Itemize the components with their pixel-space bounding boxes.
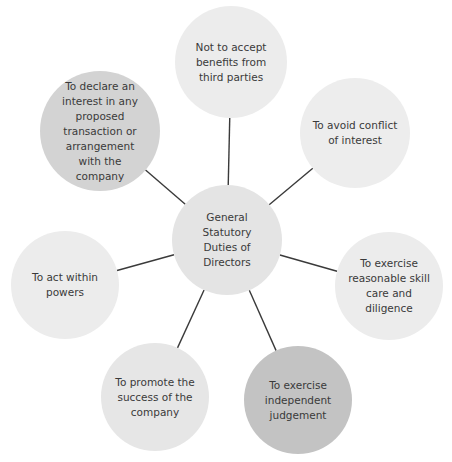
duty-label: To declare an interest in any proposed t… [62, 79, 138, 184]
duty-label: To promote the success of the company [115, 375, 194, 420]
connector-line [146, 170, 186, 204]
duty-node-independent-judgement: To exercise independent judgement [244, 346, 352, 454]
center-node-general-statutory-duties: General Statutory Duties of Directors [172, 185, 282, 295]
connector-line [117, 255, 174, 271]
duties-diagram: General Statutory Duties of Directors No… [0, 0, 452, 462]
duty-node-promote-success: To promote the success of the company [101, 343, 209, 451]
duty-node-avoid-conflict: To avoid conflict of interest [300, 78, 410, 188]
connector-line [280, 255, 337, 271]
duty-label: To avoid conflict of interest [313, 118, 398, 148]
connector-line [178, 290, 205, 348]
center-node-label: General Statutory Duties of Directors [202, 210, 251, 270]
connector-line [269, 168, 313, 204]
duty-label: Not to accept benefits from third partie… [196, 40, 267, 85]
duty-node-reasonable-skill: To exercise reasonable skill care and di… [335, 232, 443, 340]
duty-label: To exercise reasonable skill care and di… [343, 256, 435, 316]
duty-node-act-within-powers: To act within powers [11, 231, 119, 339]
duty-label: To exercise independent judgement [265, 378, 331, 423]
connector-line [228, 118, 230, 185]
duty-node-not-accept-benefits: Not to accept benefits from third partie… [175, 6, 287, 118]
duty-label: To act within powers [32, 270, 98, 300]
connector-line [249, 290, 276, 350]
duty-node-declare-interest: To declare an interest in any proposed t… [40, 71, 160, 191]
